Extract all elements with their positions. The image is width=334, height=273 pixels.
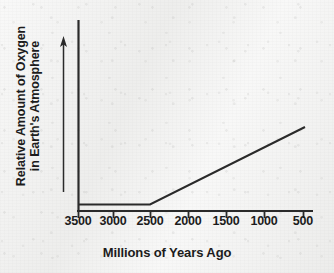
chart-plot-area: [0, 0, 334, 273]
x-tick-label-2000: 2000: [174, 214, 201, 228]
x-tick-label-1000: 1000: [250, 214, 277, 228]
x-tick-label-3500: 3500: [64, 214, 91, 228]
chart-figure: Relative Amount of Oxygen in Earth's Atm…: [0, 0, 334, 273]
x-tick-label-1500: 1500: [212, 214, 239, 228]
y-axis-title-line-1: Relative Amount of Oxygen: [14, 26, 29, 186]
y-axis-title: Relative Amount of Oxygen in Earth's Atm…: [6, 0, 50, 212]
x-tick-label-3000: 3000: [99, 214, 126, 228]
y-axis-title-line-2: in Earth's Atmosphere: [28, 41, 43, 171]
x-axis-title: Millions of Years Ago: [0, 245, 334, 260]
x-tick-label-2500: 2500: [136, 214, 163, 228]
x-tick-label-500: 500: [293, 214, 313, 228]
y-axis-increase-arrow-icon: [60, 36, 67, 192]
x-axis-tick-labels: 3500 3000 2500 2000 1500 1000 500: [0, 214, 334, 232]
oxygen-data-line: [79, 127, 305, 205]
